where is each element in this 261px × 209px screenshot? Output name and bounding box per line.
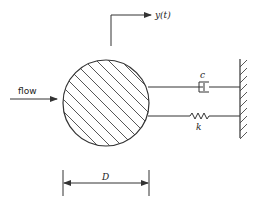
wall xyxy=(240,59,247,139)
spring xyxy=(148,113,240,119)
damper xyxy=(148,82,240,92)
displacement-label: y(t) xyxy=(154,10,171,20)
diameter-label: D xyxy=(101,172,109,182)
cylinder xyxy=(0,0,236,209)
displacement-arrow xyxy=(111,15,151,46)
flow-label: flow xyxy=(18,86,37,96)
spring-label: k xyxy=(196,122,201,132)
damper-label: c xyxy=(200,70,205,80)
cylinder-spring-damper-diagram: y(t) flow xyxy=(0,0,261,209)
